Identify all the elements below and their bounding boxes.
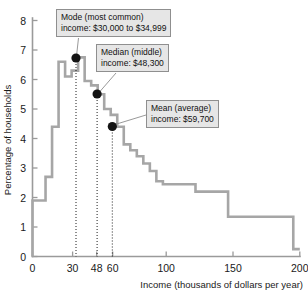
callout-mode-line1: Mode (most common) bbox=[61, 12, 166, 23]
mean-leader-line bbox=[115, 115, 146, 125]
y-tick-label: 0 bbox=[20, 251, 26, 263]
y-tick-label: 2 bbox=[20, 192, 26, 204]
x-tick-label: 100 bbox=[157, 262, 175, 274]
mean-marker-dot bbox=[108, 122, 117, 131]
callout-mode: Mode (most common) income: $30,000 to $3… bbox=[56, 9, 171, 37]
mode-marker-dot bbox=[71, 53, 80, 62]
callout-median-line2: income: $48,300 bbox=[101, 58, 164, 69]
median-marker-dot bbox=[93, 89, 102, 98]
y-tick-label: 6 bbox=[20, 74, 26, 86]
median-leader-line bbox=[100, 73, 117, 92]
histogram-step-line bbox=[33, 57, 300, 256]
y-tick-label: 1 bbox=[20, 221, 26, 233]
x-tick-label: 30 bbox=[67, 262, 79, 274]
x-tick-label: 150 bbox=[224, 262, 242, 274]
callout-mean: Mean (average) income: $59,700 bbox=[146, 100, 219, 128]
y-tick-label: 3 bbox=[20, 162, 26, 174]
y-tick-label: 5 bbox=[20, 103, 26, 115]
y-axis-title: Percentage of households bbox=[2, 85, 13, 196]
y-tick-label: 4 bbox=[20, 133, 26, 145]
income-distribution-chart: 0 1 2 3 4 5 6 7 8 0 30 48 60 100 15 bbox=[0, 0, 308, 295]
callout-median: Median (middle) income: $48,300 bbox=[96, 44, 169, 72]
x-tick-labels: 0 30 48 60 100 150 200 bbox=[30, 262, 308, 274]
x-tick-label: 200 bbox=[291, 262, 308, 274]
x-tick-label: 48 bbox=[91, 262, 103, 274]
statistic-drop-lines bbox=[76, 58, 112, 257]
x-axis-title: Income (thousands of dollars per year) bbox=[140, 279, 303, 290]
callout-mean-line1: Mean (average) bbox=[151, 103, 214, 114]
y-tick-label: 8 bbox=[20, 15, 26, 27]
y-tick-label: 7 bbox=[20, 44, 26, 56]
callout-median-line1: Median (middle) bbox=[101, 47, 164, 58]
callout-mode-line2: income: $30,000 to $34,999 bbox=[61, 23, 166, 34]
y-tick-labels: 0 1 2 3 4 5 6 7 8 bbox=[20, 15, 26, 263]
mode-leader-line bbox=[77, 38, 79, 56]
x-tick-label: 60 bbox=[107, 262, 119, 274]
callout-mean-line2: income: $59,700 bbox=[151, 114, 214, 125]
x-tick-label: 0 bbox=[30, 262, 36, 274]
